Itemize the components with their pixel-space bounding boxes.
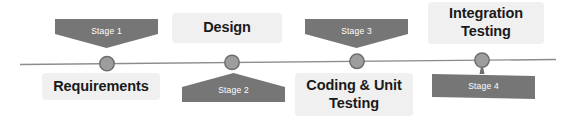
stage-callout-1[interactable]: Stage 1 <box>55 19 158 48</box>
phase-label-text: Integration Testing <box>449 5 523 40</box>
stage-callout-3-label: Stage 3 <box>341 26 372 36</box>
timeline-axis-line <box>20 60 556 65</box>
phase-label-coding-unit-testing[interactable]: Coding & Unit Testing <box>295 73 413 116</box>
phase-label-line-2: Testing <box>461 23 511 39</box>
timeline-diagram: Stage 1 Stage 2 Stage 3 Stage 4 Requirem… <box>0 0 572 120</box>
stage-callout-2[interactable]: Stage 2 <box>182 73 285 102</box>
stage-callout-3[interactable]: Stage 3 <box>305 19 408 48</box>
phase-label-requirements[interactable]: Requirements <box>42 73 160 100</box>
stage-callout-4[interactable]: Stage 4 <box>432 73 535 99</box>
phase-label-line-1: Integration <box>449 5 523 21</box>
milestone-marker-4[interactable] <box>475 53 489 67</box>
phase-label-text: Coding & Unit Testing <box>306 77 401 112</box>
stage-callout-2-label: Stage 2 <box>218 85 249 95</box>
phase-label-text: Requirements <box>53 78 149 96</box>
stage-callout-1-label: Stage 1 <box>91 26 122 36</box>
phase-label-text: Design <box>203 19 251 37</box>
milestone-marker-1[interactable] <box>100 56 114 70</box>
phase-label-line-2: Testing <box>329 95 379 111</box>
phase-label-line-1: Coding & Unit <box>306 77 401 93</box>
phase-label-integration-testing[interactable]: Integration Testing <box>428 2 544 44</box>
stage-callout-4-label: Stage 4 <box>468 81 499 91</box>
milestone-marker-3[interactable] <box>350 54 364 68</box>
milestone-marker-2[interactable] <box>225 55 239 69</box>
phase-label-design[interactable]: Design <box>172 13 282 43</box>
